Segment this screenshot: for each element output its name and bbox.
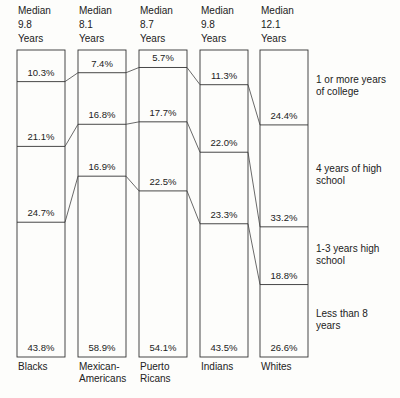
median-label: 9.8 [18,19,32,30]
segment-value: 58.9% [89,342,116,353]
median-label: Median [201,5,234,16]
segment-value: 16.9% [89,161,116,172]
legend-label: school [316,255,345,266]
category-label: Blacks [18,361,47,372]
legend-label: 1-3 years high [316,243,379,254]
median-label: 12.1 [261,19,281,30]
category-label: Indians [201,361,233,372]
category-label: Whites [261,361,292,372]
segment-value: 7.4% [91,58,113,69]
bar-puerto-ricans [139,50,187,357]
connector-line [187,191,200,224]
segment-value: 16.8% [89,109,116,120]
segment-value: 21.1% [28,131,55,142]
legend-label: school [316,175,345,186]
segment-value: 26.6% [271,342,298,353]
connector-line [65,73,78,82]
segment-value: 5.7% [152,52,174,63]
connector-line [126,122,139,124]
median-label: 8.7 [140,19,154,30]
connector-line [248,85,260,125]
category-label: Americans [79,373,126,384]
segment-value: 24.4% [271,110,298,121]
segment-value: 43.5% [211,342,238,353]
median-label: Median [140,5,173,16]
connector-line [187,122,200,152]
connector-line [65,124,78,146]
legend-label: 4 years of high [316,163,382,174]
legend-label: of college [316,86,359,97]
median-label: Years [201,33,226,44]
segment-value: 24.7% [28,207,55,218]
median-label: 8.1 [79,19,93,30]
connector-line [126,67,139,72]
segment-value: 22.0% [211,137,238,148]
legend-label: 1 or more years [316,74,386,85]
category-label: Ricans [140,373,171,384]
median-label: Years [79,33,104,44]
segment-value: 23.3% [211,209,238,220]
median-label: Median [79,5,112,16]
segment-value: 10.3% [28,67,55,78]
median-label: Median [261,5,294,16]
segment-value: 43.8% [28,342,55,353]
stacked-education-chart: Median9.8YearsMedian8.1YearsMedian8.7Yea… [0,0,400,398]
legend-label: years [316,320,340,331]
bar-whites [260,50,308,357]
segment-value: 22.5% [150,176,177,187]
connector-line [187,67,200,84]
bar-indians [200,50,248,357]
median-label: Years [18,33,43,44]
segment-value: 54.1% [150,342,177,353]
median-label: Years [140,33,165,44]
median-label: 9.8 [201,19,215,30]
category-label: Puerto [140,361,170,372]
legend-label: Less than 8 [316,308,368,319]
connector-line [248,152,260,227]
connector-line [65,176,78,222]
median-label: Median [18,5,51,16]
segment-value: 17.7% [150,107,177,118]
connector-line [126,176,139,191]
bar-mexican-americans [78,50,126,357]
segment-value: 33.2% [271,212,298,223]
segment-value: 18.8% [271,270,298,281]
connector-line [248,224,260,285]
category-label: Mexican- [79,361,120,372]
median-label: Years [261,33,286,44]
bar-blacks [17,50,65,357]
segment-value: 11.3% [211,70,238,81]
